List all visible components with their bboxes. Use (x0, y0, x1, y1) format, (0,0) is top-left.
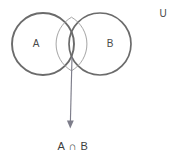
venn-diagram-figure: A B U A ∩ B (0, 0, 175, 159)
venn-diagram-canvas: A B U A ∩ B (0, 0, 175, 159)
universal-set-label: U (159, 8, 166, 19)
intersection-caption: A ∩ B (57, 140, 88, 152)
intersection-arrow-line (70, 57, 72, 122)
set-a-label: A (33, 38, 40, 49)
intersection-arrow-head (67, 121, 74, 129)
set-b-label: B (107, 38, 114, 49)
